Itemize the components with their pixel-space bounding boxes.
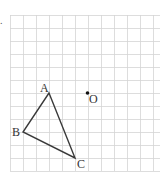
- triangle-abc: [23, 93, 75, 158]
- vertex-label-c: C: [77, 157, 85, 171]
- question-marker: .: [0, 15, 3, 26]
- grid-figure: . ABC O: [0, 0, 160, 183]
- point-o-label: O: [89, 92, 98, 106]
- square-grid: [10, 15, 160, 172]
- vertex-label-b: B: [12, 125, 20, 139]
- figure-canvas: . ABC O: [0, 0, 160, 183]
- vertex-label-a: A: [40, 81, 49, 95]
